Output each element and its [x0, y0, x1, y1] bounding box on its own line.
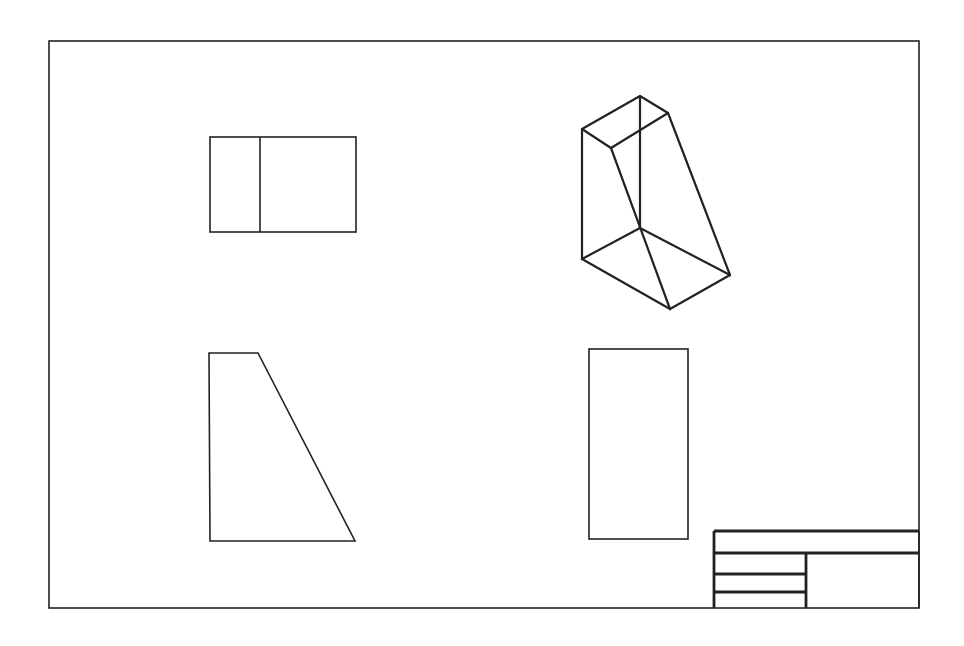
title-block [714, 531, 919, 608]
top-view [210, 137, 356, 232]
front-view [209, 353, 355, 541]
isometric-view [582, 96, 730, 309]
sheet-border [49, 41, 919, 608]
side-view [589, 349, 688, 539]
drawing-svg [0, 0, 964, 646]
drawing-sheet [0, 0, 964, 646]
